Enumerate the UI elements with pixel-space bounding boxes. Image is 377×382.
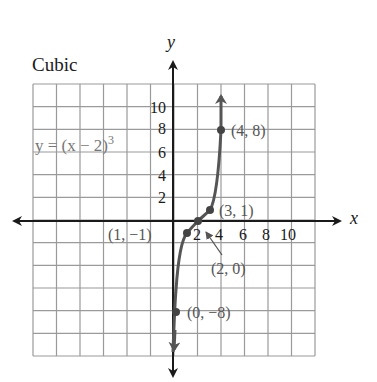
x-axis-label: x <box>349 208 358 228</box>
x-tick-6: 6 <box>239 226 247 243</box>
point-3-1 <box>206 206 214 214</box>
point-1--1 <box>183 229 191 237</box>
label-2-0: (2, 0) <box>211 260 246 278</box>
x-tick-10: 10 <box>280 226 296 243</box>
cubic-graph: Cubic y x y = (x − 2)3 10 8 6 4 2 2 4 6 … <box>0 0 377 382</box>
y-axis-label: y <box>165 32 175 52</box>
curve-down-arrow <box>174 330 175 350</box>
label-0--8: (0, −8) <box>187 304 231 322</box>
point-0--8 <box>172 308 180 316</box>
point-4-8 <box>217 126 225 134</box>
point-2-0 <box>194 217 202 225</box>
label-4-8: (4, 8) <box>231 122 266 140</box>
y-tick-6: 6 <box>158 144 166 161</box>
label-1--1: (1, −1) <box>108 226 152 244</box>
y-tick-4: 4 <box>158 167 166 184</box>
x-tick-4: 4 <box>215 226 223 243</box>
x-tick-2: 2 <box>193 226 201 243</box>
label-3-1: (3, 1) <box>219 202 254 220</box>
equation-label: y = (x − 2)3 <box>35 133 114 155</box>
chart-title: Cubic <box>32 54 77 75</box>
y-tick-10: 10 <box>150 99 166 116</box>
y-tick-8: 8 <box>158 120 166 137</box>
y-tick-2: 2 <box>158 189 166 206</box>
x-tick-8: 8 <box>262 226 270 243</box>
